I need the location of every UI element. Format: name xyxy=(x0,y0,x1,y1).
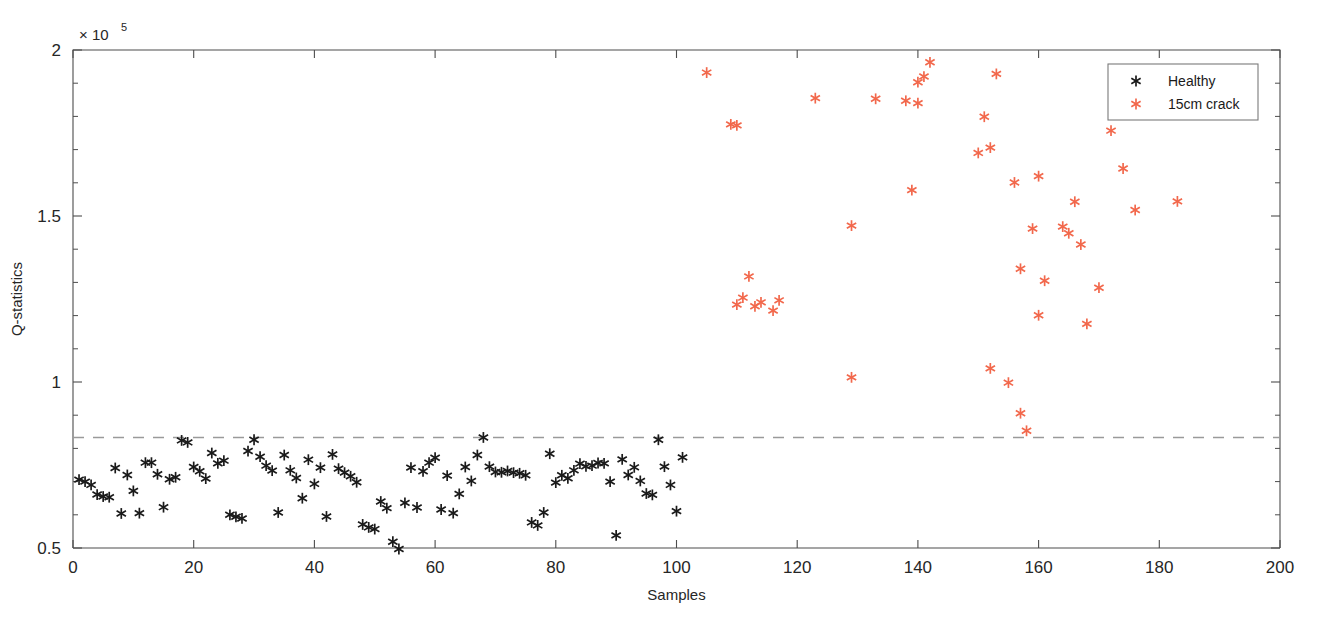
data-point-marker xyxy=(1016,263,1025,274)
data-point-marker xyxy=(195,466,204,477)
data-point-marker xyxy=(442,470,451,481)
data-point-marker xyxy=(298,493,307,504)
data-point-marker xyxy=(280,450,289,461)
series-healthy xyxy=(74,432,687,554)
data-point-marker xyxy=(666,480,675,491)
data-point-marker xyxy=(1028,223,1037,234)
data-point-marker xyxy=(569,465,578,476)
x-tick-label: 0 xyxy=(68,558,77,577)
data-point-marker xyxy=(310,479,319,490)
data-point-marker xyxy=(400,497,409,508)
data-point-marker xyxy=(1058,221,1067,232)
data-point-marker xyxy=(925,57,934,68)
data-point-marker xyxy=(328,449,337,460)
data-point-marker xyxy=(1082,319,1091,330)
data-point-marker xyxy=(1016,408,1025,419)
data-point-marker xyxy=(316,462,325,473)
chart-figure: 0204060801001201401601802000.511.52× 105… xyxy=(0,0,1327,628)
x-tick-label: 100 xyxy=(662,558,690,577)
data-point-marker xyxy=(292,473,301,484)
data-point-marker xyxy=(847,372,856,383)
data-point-marker xyxy=(418,466,427,477)
data-point-marker xyxy=(147,457,156,468)
legend-label-crack: 15cm crack xyxy=(1168,96,1241,112)
data-point-marker xyxy=(382,503,391,514)
data-point-marker xyxy=(340,467,349,478)
data-point-marker xyxy=(811,93,820,104)
data-point-marker xyxy=(750,301,759,312)
data-point-marker xyxy=(986,142,995,153)
plot-box xyxy=(73,50,1280,548)
data-point-marker xyxy=(455,488,464,499)
x-tick-label: 120 xyxy=(783,558,811,577)
data-point-marker xyxy=(1106,125,1115,136)
data-point-marker xyxy=(412,502,421,513)
data-point-marker xyxy=(974,148,983,159)
data-point-marker xyxy=(141,457,150,468)
data-point-marker xyxy=(249,434,258,445)
data-point-marker xyxy=(992,69,1001,80)
data-point-marker xyxy=(913,98,922,109)
x-tick-label: 40 xyxy=(305,558,324,577)
data-point-marker xyxy=(473,450,482,461)
data-point-marker xyxy=(636,476,645,487)
data-point-marker xyxy=(1118,163,1127,174)
data-point-marker xyxy=(847,220,856,231)
data-point-marker xyxy=(255,451,264,462)
data-point-marker xyxy=(1173,196,1182,207)
y-tick-label: 1.5 xyxy=(37,207,61,226)
data-point-marker xyxy=(702,67,711,78)
data-point-marker xyxy=(1022,425,1031,436)
data-point-marker xyxy=(1076,239,1085,250)
data-point-marker xyxy=(599,458,608,469)
x-tick-label: 140 xyxy=(904,558,932,577)
data-point-marker xyxy=(744,271,753,282)
data-point-marker xyxy=(539,507,548,518)
x-tick-label: 20 xyxy=(184,558,203,577)
data-point-marker xyxy=(461,462,470,473)
data-point-marker xyxy=(1004,377,1013,388)
scatter-plot: 0204060801001201401601802000.511.52× 105… xyxy=(0,0,1327,628)
data-point-marker xyxy=(467,476,476,487)
y-tick-label: 1 xyxy=(52,373,61,392)
y-tick-label: 2 xyxy=(52,41,61,60)
data-point-marker xyxy=(1040,275,1049,286)
data-point-marker xyxy=(756,297,765,308)
x-tick-label: 200 xyxy=(1266,558,1294,577)
data-point-marker xyxy=(678,452,687,463)
y-axis-multiplier: × 105 xyxy=(79,21,127,43)
data-point-marker xyxy=(1010,177,1019,188)
data-point-marker xyxy=(551,477,560,488)
data-point-marker xyxy=(436,504,445,515)
data-point-marker xyxy=(1070,196,1079,207)
legend-label-healthy: Healthy xyxy=(1168,73,1215,89)
data-point-marker xyxy=(738,292,747,303)
data-point-marker xyxy=(286,465,295,476)
data-point-marker xyxy=(1034,171,1043,182)
data-point-marker xyxy=(1130,205,1139,216)
data-point-marker xyxy=(1034,310,1043,321)
data-point-marker xyxy=(207,448,216,459)
data-point-marker xyxy=(901,95,910,106)
data-point-marker xyxy=(986,363,995,374)
x-tick-label: 180 xyxy=(1145,558,1173,577)
data-point-marker xyxy=(304,454,313,465)
legend[interactable]: Healthy15cm crack xyxy=(1108,64,1258,120)
data-point-marker xyxy=(129,485,138,496)
data-point-marker xyxy=(624,470,633,481)
data-point-marker xyxy=(159,502,168,513)
x-tick-label: 160 xyxy=(1024,558,1052,577)
data-point-marker xyxy=(135,508,144,519)
data-point-marker xyxy=(123,470,132,481)
data-point-marker xyxy=(1094,282,1103,293)
x-tick-label: 60 xyxy=(426,558,445,577)
data-point-marker xyxy=(153,469,162,480)
data-point-marker xyxy=(334,463,343,474)
y-axis-title: Q-statistics xyxy=(8,262,25,336)
y-tick-label: 0.5 xyxy=(37,539,61,558)
data-point-marker xyxy=(732,299,741,310)
data-point-marker xyxy=(86,480,95,491)
data-point-marker xyxy=(672,506,681,517)
data-point-marker xyxy=(388,536,397,547)
data-point-marker xyxy=(406,462,415,473)
